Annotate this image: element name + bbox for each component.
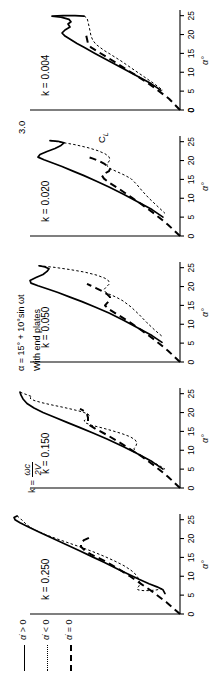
x-tick-label: 25 — [187, 511, 196, 529]
x-tick-label: 25 — [187, 259, 196, 277]
x-tick-label: 0 — [187, 479, 196, 497]
panel-k-0.020: 0510152025α°k = 0.020 — [0, 122, 220, 244]
x-tick-label: 25 — [187, 7, 196, 25]
curve-alpha-dot-zero-static — [87, 284, 180, 362]
panel-label-k-0.250: k = 0.250 — [40, 559, 51, 600]
curve-alpha-dot-negative — [50, 141, 165, 214]
x-tick-label: 15 — [187, 548, 196, 566]
curve-alpha-dot-negative — [39, 266, 163, 337]
x-tick-label: 5 — [187, 334, 196, 352]
x-tick-label: 15 — [187, 296, 196, 314]
x-tick-label: 0 — [187, 605, 196, 623]
curve-alpha-dot-zero-static — [81, 538, 180, 614]
legend-label-alpha-dot-zero: α̇ = 0 — [64, 620, 74, 640]
panel-k-0.150: 0510152025α°k = 0.150 — [0, 374, 220, 496]
x-axis-title: α° — [200, 182, 210, 191]
x-tick-label: 10 — [187, 189, 196, 207]
x-tick-label: 15 — [187, 44, 196, 62]
y-axis-min-label: 0 — [187, 101, 196, 119]
x-axis-title: α° — [200, 56, 210, 65]
panel-label-k-0.050: k = 0.050 — [40, 307, 51, 348]
x-axis-title: α° — [200, 434, 210, 443]
x-tick-label: 20 — [187, 278, 196, 296]
x-tick-label: 10 — [187, 567, 196, 585]
x-tick-label: 20 — [187, 26, 196, 44]
curve-alpha-dot-positive — [14, 516, 165, 594]
panel-k-0.250: 0510152025α°k = 0.250 — [0, 500, 220, 622]
x-tick-label: 20 — [187, 404, 196, 422]
x-tick-label: 5 — [187, 208, 196, 226]
x-tick-label: 5 — [187, 82, 196, 100]
panel-label-k-0.150: k = 0.150 — [40, 433, 51, 474]
legend-swatch-solid — [24, 645, 25, 671]
x-axis-title: α° — [200, 560, 210, 569]
x-tick-label: 0 — [187, 353, 196, 371]
x-tick-label: 25 — [187, 133, 196, 151]
figure-stage: α̇ > 0 α̇ < 0 α̇ = 0 k = ωc 2V α = 15° +… — [0, 0, 220, 679]
legend-swatch-dotted — [47, 645, 48, 671]
panel-label-k-0.020: k = 0.020 — [40, 181, 51, 222]
x-axis-title: α° — [200, 308, 210, 317]
panel-k-0.050: 0510152025α°k = 0.050 — [0, 248, 220, 370]
x-tick-label: 10 — [187, 63, 196, 81]
legend-label-alpha-dot-negative: α̇ < 0 — [41, 620, 51, 640]
x-tick-label: 5 — [187, 586, 196, 604]
x-tick-label: 20 — [187, 152, 196, 170]
x-tick-label: 20 — [187, 530, 196, 548]
x-tick-label: 25 — [187, 385, 196, 403]
x-tick-label: 15 — [187, 422, 196, 440]
curve-alpha-dot-zero-static — [87, 157, 180, 236]
x-tick-label: 0 — [187, 227, 196, 245]
legend-label-alpha-dot-positive: α̇ > 0 — [18, 620, 28, 640]
legend-swatch-dashed — [70, 645, 72, 671]
x-tick-label: 15 — [187, 170, 196, 188]
panel-label-k-0.004: k = 0.004 — [40, 55, 51, 96]
x-tick-label: 10 — [187, 315, 196, 333]
curve-alpha-dot-positive — [52, 16, 161, 91]
x-tick-label: 5 — [187, 460, 196, 478]
x-tick-label: 10 — [187, 441, 196, 459]
curve-alpha-dot-zero-static — [80, 409, 180, 488]
curve-alpha-dot-zero-static — [86, 35, 180, 110]
